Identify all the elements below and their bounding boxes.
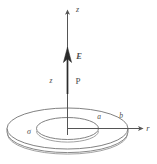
inner-radius-label: a	[97, 112, 101, 121]
figure-container: r z E z P σ a b	[0, 0, 157, 164]
field-vector-label: E	[75, 51, 82, 61]
outer-radius-label: b	[119, 111, 123, 120]
annulus-field-diagram: r z E z P σ a b	[0, 0, 157, 164]
point-p-label: P	[75, 76, 80, 86]
height-z-label: z	[49, 76, 53, 85]
